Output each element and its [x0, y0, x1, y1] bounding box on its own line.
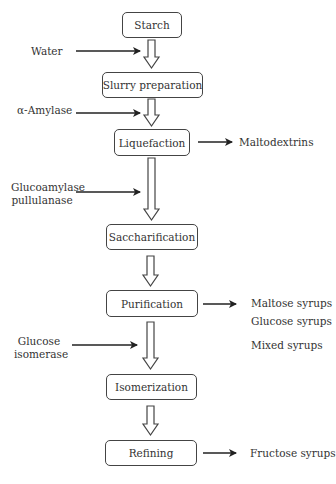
- step-purification: Purification: [106, 290, 198, 317]
- step-label: Starch: [134, 19, 169, 31]
- step-saccharification: Saccharification: [106, 224, 198, 250]
- output-label-mixed-syrups: Mixed syrups: [251, 339, 323, 352]
- arrow-isomerization-refining: [143, 406, 158, 435]
- step-label: Isomerization: [115, 381, 188, 393]
- arrow-starch-slurry: [144, 40, 159, 68]
- step-label: Purification: [121, 298, 183, 310]
- step-label: Refining: [129, 447, 174, 459]
- input-label-line2: isomerase: [14, 348, 64, 361]
- arrow-slurry-liquefaction: [144, 99, 159, 126]
- arrow-saccharification-purification: [143, 256, 158, 286]
- input-label-glucose-isomerase: Glucose isomerase: [14, 335, 64, 361]
- input-label-line2: pullulanase: [11, 194, 73, 207]
- input-label-line1: Glucoamylase: [11, 181, 73, 194]
- input-label-water: Water: [31, 45, 63, 58]
- step-refining: Refining: [105, 440, 197, 466]
- output-label-maltose-syrups: Maltose syrups: [251, 297, 332, 310]
- step-label: Saccharification: [109, 231, 195, 243]
- arrow-liquefaction-saccharification: [144, 158, 159, 220]
- arrow-purification-isomerization: [143, 322, 158, 369]
- step-slurry-preparation: Slurry preparation: [102, 72, 203, 98]
- step-starch: Starch: [122, 12, 182, 38]
- input-label-amylase: α-Amylase: [17, 104, 72, 117]
- step-isomerization: Isomerization: [106, 374, 197, 400]
- output-label-maltodextrins: Maltodextrins: [239, 136, 314, 149]
- output-label-fructose-syrups: Fructose syrups: [250, 447, 336, 460]
- step-label: Liquefaction: [119, 137, 186, 149]
- step-label: Slurry preparation: [103, 79, 203, 91]
- step-liquefaction: Liquefaction: [114, 129, 190, 156]
- output-label-glucose-syrups: Glucose syrups: [251, 315, 332, 328]
- input-label-glucoamylase: Glucoamylase pullulanase: [11, 181, 73, 207]
- input-label-line1: Glucose: [14, 335, 64, 348]
